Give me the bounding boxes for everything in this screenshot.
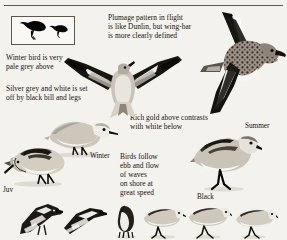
bottom-bird-strip — [0, 202, 287, 240]
label-black: Black — [197, 193, 214, 201]
silhouette-comparison-box — [11, 16, 75, 45]
small-bird-standing-1-icon — [140, 202, 186, 240]
small-bird-standing-3-icon — [232, 202, 278, 240]
small-bird-standing-2-icon — [186, 202, 232, 240]
label-winter: Winter — [90, 152, 110, 160]
field-guide-page: Plumage pattern in flight is like Dunlin… — [0, 0, 287, 240]
flying-bird-summer-illustration — [186, 6, 286, 118]
small-bird-standing-2 — [186, 202, 232, 240]
flying-bird-summer-plumage — [186, 6, 286, 118]
standing-bird-black-legs — [190, 132, 262, 192]
small-bird-standing-1 — [140, 202, 186, 240]
label-summer: Summer — [245, 122, 269, 130]
small-bird-flying-1-icon — [18, 202, 64, 240]
standing-bird-juvenile — [2, 138, 74, 188]
note-ebb: Birds follow ebb and flow of waves on sh… — [120, 152, 180, 197]
silhouette-birds-icon — [12, 17, 74, 44]
standing-bird-black-legs-illustration — [190, 132, 262, 192]
small-bird-standing-3 — [232, 202, 278, 240]
label-juv: Juv — [3, 186, 13, 194]
small-bird-flying-1 — [18, 202, 64, 240]
small-bird-flying-2-icon — [62, 202, 108, 240]
small-bird-flying-2 — [62, 202, 108, 240]
standing-bird-juvenile-illustration — [2, 138, 74, 188]
